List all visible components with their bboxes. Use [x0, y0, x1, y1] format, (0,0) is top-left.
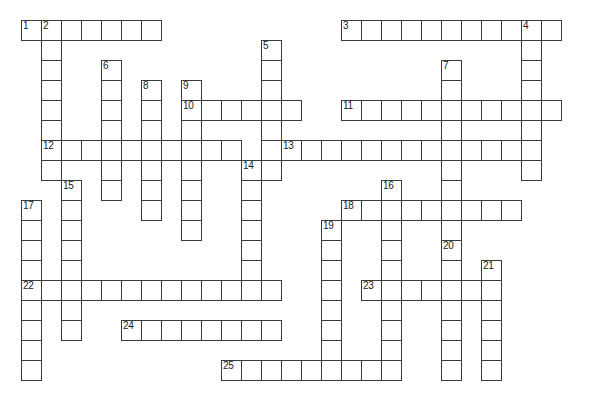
crossword-cell[interactable] — [181, 220, 202, 241]
crossword-cell[interactable] — [441, 100, 462, 121]
crossword-cell[interactable] — [21, 240, 42, 261]
crossword-cell[interactable] — [421, 20, 442, 41]
crossword-cell[interactable] — [261, 280, 282, 301]
crossword-cell[interactable] — [141, 280, 162, 301]
crossword-cell-start-23[interactable]: 23 — [361, 280, 382, 301]
crossword-cell[interactable] — [61, 20, 82, 41]
crossword-cell[interactable] — [21, 260, 42, 281]
crossword-cell[interactable] — [141, 120, 162, 141]
crossword-cell[interactable] — [121, 20, 142, 41]
crossword-cell[interactable] — [521, 160, 542, 181]
crossword-cell[interactable] — [101, 20, 122, 41]
crossword-cell-start-25[interactable]: 25 — [221, 360, 242, 381]
crossword-cell[interactable] — [321, 360, 342, 381]
crossword-cell[interactable] — [321, 240, 342, 261]
crossword-cell[interactable] — [501, 20, 522, 41]
crossword-cell-start-6[interactable]: 6 — [101, 60, 122, 81]
crossword-cell[interactable] — [221, 280, 242, 301]
crossword-cell[interactable] — [101, 80, 122, 101]
crossword-cell[interactable] — [261, 120, 282, 141]
crossword-cell[interactable] — [181, 140, 202, 161]
crossword-cell[interactable] — [381, 100, 402, 121]
crossword-cell[interactable] — [361, 200, 382, 221]
crossword-cell[interactable] — [281, 100, 302, 121]
crossword-cell[interactable] — [261, 60, 282, 81]
crossword-cell[interactable] — [521, 40, 542, 61]
crossword-cell[interactable] — [101, 160, 122, 181]
crossword-cell[interactable] — [61, 240, 82, 261]
crossword-cell[interactable] — [101, 100, 122, 121]
crossword-cell[interactable] — [41, 60, 62, 81]
crossword-cell[interactable] — [341, 140, 362, 161]
crossword-cell[interactable] — [341, 360, 362, 381]
crossword-cell[interactable] — [441, 20, 462, 41]
crossword-cell[interactable] — [481, 100, 502, 121]
crossword-cell[interactable] — [261, 160, 282, 181]
crossword-cell[interactable] — [201, 320, 222, 341]
crossword-cell[interactable] — [381, 300, 402, 321]
crossword-cell[interactable] — [441, 340, 462, 361]
crossword-cell[interactable] — [201, 280, 222, 301]
crossword-cell[interactable] — [321, 320, 342, 341]
crossword-cell[interactable] — [141, 140, 162, 161]
crossword-cell[interactable] — [301, 140, 322, 161]
crossword-cell-start-12[interactable]: 12 — [41, 140, 62, 161]
crossword-cell[interactable] — [501, 100, 522, 121]
crossword-cell[interactable] — [181, 320, 202, 341]
crossword-cell[interactable] — [161, 140, 182, 161]
crossword-cell[interactable] — [401, 280, 422, 301]
crossword-cell[interactable] — [441, 220, 462, 241]
crossword-cell[interactable] — [21, 300, 42, 321]
crossword-cell[interactable] — [101, 280, 122, 301]
crossword-cell-start-10[interactable]: 10 — [181, 100, 202, 121]
crossword-cell[interactable] — [61, 260, 82, 281]
crossword-cell[interactable] — [241, 260, 262, 281]
crossword-cell[interactable] — [41, 160, 62, 181]
crossword-cell-start-18[interactable]: 18 — [341, 200, 362, 221]
crossword-cell[interactable] — [41, 120, 62, 141]
crossword-cell[interactable] — [481, 360, 502, 381]
crossword-cell[interactable] — [401, 200, 422, 221]
crossword-cell-start-20[interactable]: 20 — [441, 240, 462, 261]
crossword-cell[interactable] — [101, 180, 122, 201]
crossword-cell-start-24[interactable]: 24 — [121, 320, 142, 341]
crossword-cell[interactable] — [241, 280, 262, 301]
crossword-cell[interactable] — [461, 200, 482, 221]
crossword-cell[interactable] — [41, 80, 62, 101]
crossword-cell[interactable] — [381, 260, 402, 281]
crossword-cell[interactable] — [461, 20, 482, 41]
crossword-cell[interactable] — [141, 320, 162, 341]
crossword-cell[interactable] — [241, 220, 262, 241]
crossword-cell-start-3[interactable]: 3 — [341, 20, 362, 41]
crossword-cell[interactable] — [461, 280, 482, 301]
crossword-cell[interactable] — [181, 120, 202, 141]
crossword-cell[interactable] — [521, 120, 542, 141]
crossword-cell[interactable] — [481, 140, 502, 161]
crossword-cell[interactable] — [481, 320, 502, 341]
crossword-cell[interactable] — [421, 280, 442, 301]
crossword-cell[interactable] — [241, 100, 262, 121]
crossword-cell[interactable] — [61, 220, 82, 241]
crossword-cell[interactable] — [481, 280, 502, 301]
crossword-cell[interactable] — [61, 200, 82, 221]
crossword-cell[interactable] — [381, 340, 402, 361]
crossword-cell[interactable] — [481, 340, 502, 361]
crossword-cell[interactable] — [481, 200, 502, 221]
crossword-cell[interactable] — [61, 300, 82, 321]
crossword-cell[interactable] — [241, 200, 262, 221]
crossword-cell[interactable] — [181, 160, 202, 181]
crossword-cell[interactable] — [401, 20, 422, 41]
crossword-cell[interactable] — [241, 240, 262, 261]
crossword-cell-start-14[interactable]: 14 — [241, 160, 262, 181]
crossword-cell[interactable] — [181, 280, 202, 301]
crossword-cell[interactable] — [21, 220, 42, 241]
crossword-cell[interactable] — [421, 100, 442, 121]
crossword-cell[interactable] — [521, 140, 542, 161]
crossword-cell-start-11[interactable]: 11 — [341, 100, 362, 121]
crossword-cell-start-1[interactable]: 1 — [21, 20, 42, 41]
crossword-cell[interactable] — [21, 320, 42, 341]
crossword-cell[interactable] — [461, 100, 482, 121]
crossword-cell-start-4[interactable]: 4 — [521, 20, 542, 41]
crossword-cell[interactable] — [121, 280, 142, 301]
crossword-cell[interactable] — [361, 20, 382, 41]
